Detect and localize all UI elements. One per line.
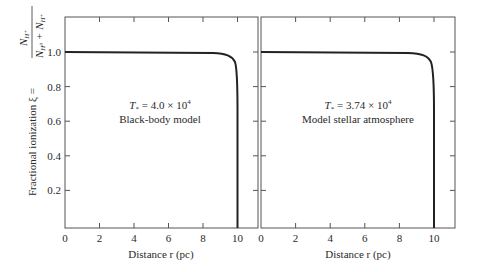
svg-text:0.2: 0.2 [47,184,61,196]
svg-text:8: 8 [397,232,403,244]
svg-text:0.4: 0.4 [47,150,61,162]
svg-text:0.6: 0.6 [47,115,61,127]
y-axis-title: Fractional ionization ξ = NH⁺ NH⁰ + NH⁺ [17,6,47,196]
svg-text:1.0: 1.0 [47,46,61,58]
left-x-tick-labels: 0 2 4 6 8 10 [62,232,243,244]
svg-text:0: 0 [258,232,264,244]
svg-text:Black-body model: Black-body model [119,113,201,125]
svg-text:2: 2 [97,232,103,244]
svg-text:Fractional ionization ξ =: Fractional ionization ξ = [26,88,39,196]
svg-text:10: 10 [232,232,244,244]
svg-text:NH⁰ + NH⁺: NH⁰ + NH⁺ [33,13,47,59]
left-annotation: T* = 4.0 × 104 Black-body model [119,98,201,125]
svg-text:T* = 4.0 × 104: T* = 4.0 × 104 [129,98,191,113]
y-tick-labels: 1.0 0.8 0.6 0.4 0.2 [47,46,61,196]
left-ionization-curve [65,52,238,228]
svg-text:4: 4 [131,232,137,244]
svg-text:4: 4 [327,232,333,244]
svg-text:0.8: 0.8 [47,81,61,93]
right-annotation: T* = 3.74 × 104 Model stellar atmosphere [302,98,414,125]
ionization-chart: 1.0 0.8 0.6 0.4 0.2 0 2 4 6 8 10 0 2 4 6… [0,0,477,272]
svg-text:T* = 3.74 × 104: T* = 3.74 × 104 [325,98,392,113]
right-ionization-curve [261,52,434,228]
svg-text:NH⁺: NH⁺ [17,30,31,47]
svg-text:2: 2 [293,232,299,244]
svg-text:0: 0 [62,232,68,244]
svg-text:6: 6 [166,232,172,244]
svg-text:8: 8 [200,232,206,244]
svg-text:6: 6 [362,232,368,244]
left-x-axis-title: Distance r (pc) [128,248,194,261]
svg-text:Model stellar atmosphere: Model stellar atmosphere [302,113,414,125]
svg-text:10: 10 [429,232,441,244]
right-x-tick-labels: 0 2 4 6 8 10 [258,232,440,244]
right-x-axis-title: Distance r (pc) [325,248,391,261]
